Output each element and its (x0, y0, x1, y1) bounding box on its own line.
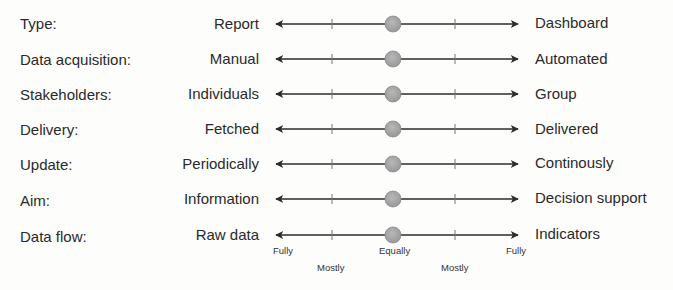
position-marker (385, 16, 401, 32)
scale-label-equally: Equally (379, 245, 410, 256)
scale-label-fully-right: Fully (506, 245, 526, 256)
scale-row-data-acquisition (276, 51, 518, 67)
scale-row-delivery (276, 121, 518, 137)
scale-row-aim (276, 191, 518, 207)
position-marker (385, 227, 401, 243)
scale-row-type (276, 16, 518, 32)
scale-lines (0, 0, 673, 290)
scale-label-mostly-right: Mostly (441, 262, 468, 273)
scale-row-stakeholders (276, 86, 518, 102)
scale-label-mostly-left: Mostly (317, 262, 344, 273)
position-marker (385, 51, 401, 67)
scale-row-data-flow (276, 227, 518, 243)
position-marker (385, 121, 401, 137)
position-marker (385, 191, 401, 207)
position-marker (385, 156, 401, 172)
scale-row-update (276, 156, 518, 172)
scale-label-fully-left: Fully (273, 245, 293, 256)
position-marker (385, 86, 401, 102)
